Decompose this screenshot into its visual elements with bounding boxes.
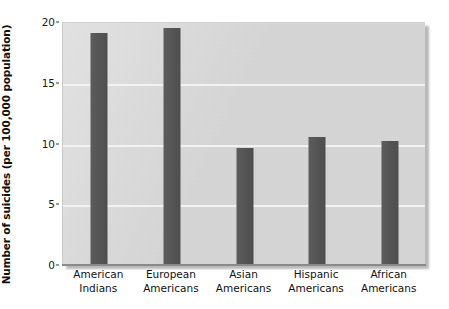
- x-tick-label-line: Americans: [361, 282, 416, 296]
- bar: [381, 141, 398, 265]
- bar-chart-figure: Number of suicides (per 100,000 populati…: [0, 0, 449, 309]
- x-tick-label-line: Hispanic: [288, 268, 343, 282]
- x-tick-label: AfricanAmericans: [361, 268, 416, 295]
- y-tick-label: 15: [42, 77, 55, 89]
- y-tick-mark: [56, 22, 59, 23]
- y-tick-label: 20: [42, 16, 55, 28]
- y-tick-mark: [56, 204, 59, 205]
- bar: [309, 137, 326, 265]
- x-tick-label-line: African: [361, 268, 416, 282]
- y-tick-label: 10: [42, 138, 55, 150]
- x-tick-label-line: Americans: [216, 282, 271, 296]
- x-tick-label: AmericanIndians: [73, 268, 123, 295]
- y-axis-title: Number of suicides (per 100,000 populati…: [0, 0, 26, 309]
- gridline: [63, 145, 425, 147]
- y-tick-label: 0: [48, 259, 55, 271]
- bar: [236, 148, 253, 265]
- x-tick-label: AsianAmericans: [216, 268, 271, 295]
- x-tick-label: EuropeanAmericans: [143, 268, 198, 295]
- x-axis-category-labels: AmericanIndiansEuropeanAmericansAsianAme…: [62, 268, 425, 309]
- x-axis-line: [62, 264, 426, 266]
- bar: [91, 33, 108, 265]
- y-tick-mark: [56, 82, 59, 83]
- x-tick-label-line: European: [143, 268, 198, 282]
- gridline: [63, 84, 425, 86]
- y-tick-mark: [56, 265, 59, 266]
- x-tick-label-line: American: [73, 268, 123, 282]
- x-tick-label-line: Asian: [216, 268, 271, 282]
- plot-panel: [62, 22, 425, 265]
- x-tick-label-line: Americans: [143, 282, 198, 296]
- x-tick-label-line: Indians: [73, 282, 123, 296]
- x-tick-label-line: Americans: [288, 282, 343, 296]
- y-tick-mark: [56, 143, 59, 144]
- x-tick-label: HispanicAmericans: [288, 268, 343, 295]
- y-axis-tick-labels: 05101520: [28, 0, 59, 309]
- y-tick-label: 5: [48, 198, 55, 210]
- bar: [163, 28, 180, 265]
